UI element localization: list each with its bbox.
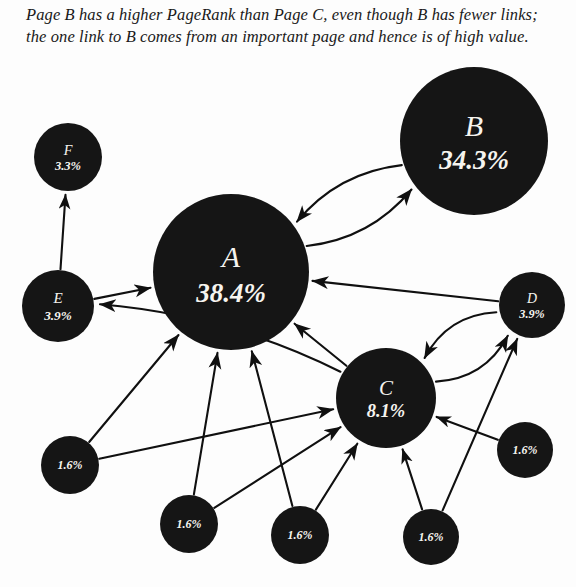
edge-e-to-f [61, 195, 66, 269]
edge-c-to-d [436, 336, 508, 382]
pagerank-figure: Page B has a higher PageRank than Page C… [0, 0, 576, 587]
edge-k-to-c [437, 417, 498, 440]
node-value-label: 8.1% [367, 401, 406, 421]
edge-i-to-c [316, 444, 357, 510]
node-g[interactable]: 1.6% [41, 436, 99, 494]
node-a[interactable]: A38.4% [153, 194, 309, 350]
node-value-label: 1.6% [513, 443, 538, 457]
node-name-label: F [63, 142, 73, 158]
node-layer: A38.4%B34.3%C8.1%D3.9%E3.9%F3.3%1.6%1.6%… [22, 67, 565, 565]
edge-d-to-a [313, 281, 499, 301]
node-value-label: 1.6% [58, 458, 83, 472]
node-e[interactable]: E3.9% [22, 270, 94, 342]
node-k[interactable]: 1.6% [497, 422, 553, 478]
node-name-label: C [379, 376, 394, 400]
edge-layer [61, 165, 518, 510]
node-h[interactable]: 1.6% [160, 495, 218, 553]
node-value-label: 3.3% [54, 159, 81, 173]
edge-i-to-a [252, 351, 293, 506]
node-c[interactable]: C8.1% [336, 348, 436, 448]
node-value-label: 38.4% [195, 278, 266, 308]
node-name-label: B [465, 109, 483, 142]
edge-j-to-d [443, 339, 518, 511]
node-value-label: 1.6% [288, 528, 313, 542]
node-i[interactable]: 1.6% [271, 506, 329, 564]
edge-g-to-a [89, 335, 178, 442]
node-value-label: 1.6% [177, 517, 202, 531]
edge-c-to-a [295, 324, 347, 366]
edge-h-to-a [194, 353, 218, 495]
node-d[interactable]: D3.9% [499, 272, 565, 338]
edge-h-to-c [214, 427, 340, 508]
edge-g-to-c [99, 409, 333, 459]
graph-canvas: A38.4%B34.3%C8.1%D3.9%E3.9%F3.3%1.6%1.6%… [0, 0, 576, 587]
edge-j-to-c [403, 449, 423, 509]
node-value-label: 3.9% [518, 307, 544, 321]
node-name-label: E [52, 290, 62, 306]
node-value-label: 1.6% [419, 530, 444, 544]
edge-d-to-c [425, 312, 497, 358]
node-name-label: D [526, 291, 537, 306]
node-name-label: A [220, 240, 241, 273]
node-f[interactable]: F3.3% [34, 123, 102, 191]
node-j[interactable]: 1.6% [403, 509, 459, 565]
node-b[interactable]: B34.3% [400, 67, 548, 215]
edge-e-to-a [94, 288, 150, 299]
node-value-label: 34.3% [438, 145, 509, 175]
node-value-label: 3.9% [43, 308, 72, 323]
